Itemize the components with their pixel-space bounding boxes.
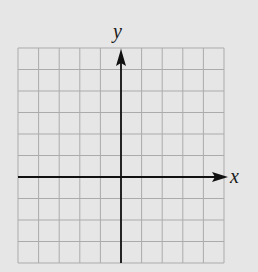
x-axis-label: x xyxy=(229,165,239,187)
y-axis-label: y xyxy=(111,20,122,43)
coordinate-plane: x y xyxy=(0,0,258,272)
